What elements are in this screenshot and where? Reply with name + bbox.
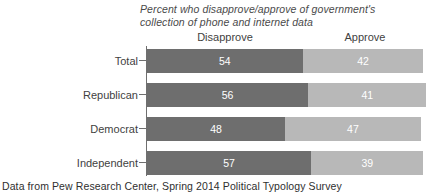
bar-row: Independent 57 39 (0, 151, 440, 175)
column-header-disapprove: Disapprove (148, 31, 302, 43)
category-label-republican: Republican (10, 83, 138, 107)
bar-segment-approve: 41 (308, 83, 426, 107)
chart-title-line-1: Percent who disapprove/approve of govern… (140, 3, 430, 16)
column-header-approve: Approve (302, 31, 428, 43)
bar-segment-disapprove: 56 (147, 83, 308, 107)
bar-segment-approve: 47 (285, 117, 420, 141)
chart-source-note: Data from Pew Research Center, Spring 20… (2, 180, 342, 192)
axis-tick (139, 128, 147, 129)
bar-segment-disapprove: 54 (147, 49, 303, 73)
bar-track: 54 42 (147, 49, 423, 73)
bar-row: Total 54 42 (0, 49, 440, 73)
bar-track: 56 41 (147, 83, 426, 107)
category-label-democrat: Democrat (10, 117, 138, 141)
bar-segment-approve: 42 (303, 49, 424, 73)
stacked-bar-chart: Percent who disapprove/approve of govern… (0, 0, 440, 195)
plot-area: Total 54 42 Republican 56 41 Democrat 48… (0, 44, 440, 178)
bar-segment-disapprove: 57 (147, 151, 311, 175)
bar-row: Democrat 48 47 (0, 117, 440, 141)
bar-segment-disapprove: 48 (147, 117, 285, 141)
bar-track: 57 39 (147, 151, 423, 175)
bar-segment-approve: 39 (311, 151, 423, 175)
axis-tick (139, 60, 147, 61)
axis-tick (139, 94, 147, 95)
category-label-independent: Independent (10, 151, 138, 175)
bar-track: 48 47 (147, 117, 421, 141)
chart-title: Percent who disapprove/approve of govern… (140, 3, 430, 29)
axis-tick (139, 162, 147, 163)
category-label-total: Total (10, 49, 138, 73)
bar-row: Republican 56 41 (0, 83, 440, 107)
chart-title-line-2: collection of phone and internet data (140, 16, 430, 29)
